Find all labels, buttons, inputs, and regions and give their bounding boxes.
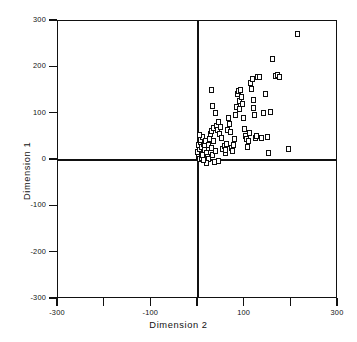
data-point [231,142,236,148]
y-tick-label: -300 [20,293,46,302]
data-point [230,148,235,154]
x-tick [290,298,291,306]
x-tick-label: -100 [133,308,167,317]
scatter-plot: 3002001000-100-200-300 -300-100100300 Di… [0,0,357,342]
data-point [246,138,251,144]
y-axis-title: Dimension 1 [22,142,32,200]
y-tick [49,19,57,20]
data-point [295,31,300,37]
x-tick-label: 300 [320,308,354,317]
data-point [251,105,256,111]
data-point [286,146,291,152]
data-point [259,135,264,141]
data-point [227,121,232,127]
data-point [245,144,250,150]
y-tick-label: -100 [20,200,46,209]
y-tick-label: 200 [20,61,46,70]
data-point [228,129,233,135]
data-point [261,110,266,116]
data-point [266,150,271,156]
x-tick [150,298,151,306]
data-point [210,103,215,109]
data-point [211,138,216,144]
data-point [197,132,202,138]
x-tick [103,298,104,306]
data-point [240,101,245,107]
x-tick-label: -300 [40,308,74,317]
data-point [213,110,218,116]
data-point [268,109,273,115]
y-tick [49,205,57,206]
data-point [239,94,244,100]
x-tick [196,298,197,306]
data-point [250,76,255,82]
data-point [218,124,223,130]
y-tick-label: 100 [20,108,46,117]
x-tick [56,298,57,306]
data-point [219,135,224,141]
y-tick [49,66,57,67]
data-point [249,86,254,92]
data-point [241,115,246,121]
data-point [252,112,257,118]
data-point [223,147,228,153]
data-point [265,134,270,140]
data-point [233,112,238,118]
y-tick [49,112,57,113]
data-point [247,130,252,136]
y-tick [49,251,57,252]
y-tick-label: -200 [20,247,46,256]
data-point [209,87,214,93]
x-tick-label: 100 [227,308,261,317]
data-point [257,74,262,80]
x-tick [336,298,337,306]
data-point [251,97,256,103]
data-point [238,87,243,93]
data-point [216,158,221,164]
data-point [201,157,206,163]
data-point [277,74,282,80]
x-axis-title: Dimension 2 [0,320,357,330]
x-tick [243,298,244,306]
y-tick [49,158,57,159]
data-point [270,56,275,62]
data-point [213,148,218,154]
y-tick-label: 300 [20,15,46,24]
data-point [232,136,237,142]
data-point [263,91,268,97]
